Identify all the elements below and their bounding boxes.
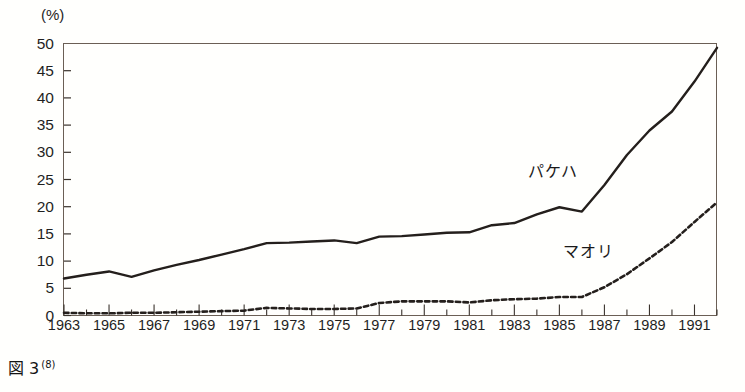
y-tick-label: 20 — [20, 199, 54, 215]
figure-container: (%) 05101520253035404550 196319651967196… — [0, 0, 745, 392]
x-tick-label: 1975 — [318, 318, 350, 333]
x-tick-label: 1979 — [408, 318, 440, 333]
x-tick-label: 1983 — [498, 318, 530, 333]
y-tick-label: 30 — [20, 144, 54, 160]
y-tick-label: 45 — [20, 63, 54, 79]
x-tick-label: 1969 — [183, 318, 215, 333]
series-label-maori: マオリ — [563, 238, 614, 262]
series-line-pakeha — [64, 48, 717, 279]
figure-caption-label: 図 3 — [8, 359, 39, 378]
chart-plot-area: (%) 05101520253035404550 196319651967196… — [0, 0, 745, 348]
x-tick-label: 1971 — [228, 318, 260, 333]
x-tick-label: 1981 — [453, 318, 485, 333]
y-tick-label: 25 — [20, 172, 54, 188]
figure-caption: 図 3(8) — [8, 355, 55, 379]
y-tick-label: 5 — [20, 280, 54, 296]
figure-caption-note: (8) — [41, 359, 55, 370]
plot-frame — [64, 44, 717, 316]
x-tick-label: 1965 — [93, 318, 125, 333]
x-tick-label: 1967 — [138, 318, 170, 333]
y-tick-label: 35 — [20, 117, 54, 133]
chart-svg — [0, 0, 745, 348]
y-tick-label: 40 — [20, 90, 54, 106]
series-label-pakeha: パケハ — [528, 158, 578, 182]
x-tick-label: 1989 — [633, 318, 665, 333]
y-axis-unit-label: (%) — [41, 6, 64, 23]
x-tick-label: 1987 — [588, 318, 620, 333]
series-line-maori — [64, 202, 717, 313]
x-tick-label: 1991 — [678, 318, 710, 333]
x-tick-label: 1963 — [48, 318, 80, 333]
x-tick-label: 1977 — [363, 318, 395, 333]
x-tick-label: 1973 — [273, 318, 305, 333]
y-tick-label: 50 — [20, 36, 54, 52]
y-tick-label: 10 — [20, 253, 54, 269]
x-tick-label: 1985 — [543, 318, 575, 333]
y-tick-label: 15 — [20, 226, 54, 242]
